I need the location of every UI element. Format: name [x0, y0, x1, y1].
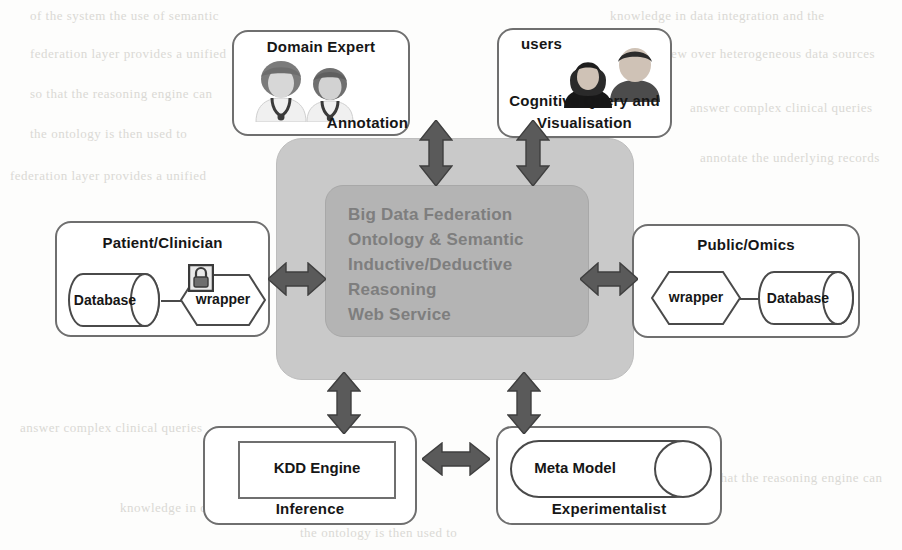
central-core-text: Big Data Federation Ontology & Semantic …	[348, 202, 524, 327]
background-bleed-text: so that the reasoning engine can	[700, 470, 882, 486]
arrow-center-kdd	[327, 372, 361, 434]
patient-database-cylinder: Database	[67, 270, 163, 334]
node-domain-expert[interactable]: Domain Expert	[232, 30, 410, 136]
background-bleed-text: knowledge in data integration and the	[610, 8, 825, 24]
background-bleed-text: answer complex clinical queries	[690, 100, 873, 116]
background-bleed-text: annotate the underlying records	[700, 150, 880, 166]
cognitive-users-caption-line1: Cognitive Query and	[499, 92, 670, 109]
node-experimentalist[interactable]: Meta Model Experimentalist	[496, 426, 722, 525]
meta-model-label: Meta Model	[478, 459, 672, 476]
background-bleed-text: the ontology is then used to	[30, 126, 187, 142]
node-patient-clinician[interactable]: Patient/Clinician Database wrapper	[55, 221, 270, 337]
kdd-engine-label: KDD Engine	[240, 459, 394, 476]
kdd-inference-caption: Inference	[205, 500, 415, 517]
domain-expert-title: Domain Expert	[234, 38, 408, 55]
diagram-canvas: of the system the use of semantic knowle…	[0, 0, 902, 550]
meta-model-circle-cap	[654, 440, 712, 498]
background-bleed-text: answer complex clinical queries	[20, 420, 203, 436]
kdd-engine-box: KDD Engine	[238, 441, 396, 499]
background-bleed-text: so that the reasoning engine can	[30, 86, 212, 102]
arrow-center-experimentalist	[507, 372, 541, 434]
central-federation-panel: Big Data Federation Ontology & Semantic …	[276, 138, 634, 380]
omics-wrapper-label: wrapper	[650, 289, 742, 305]
background-bleed-text: federation layer provides a unified	[30, 46, 227, 62]
domain-expert-caption: Annotation	[234, 114, 440, 131]
public-omics-title: Public/Omics	[634, 236, 858, 253]
background-bleed-text: of the system the use of semantic	[30, 8, 219, 24]
arrow-center-patient-clinician	[268, 262, 326, 296]
experimentalist-caption: Experimentalist	[498, 500, 720, 517]
background-bleed-text: view over heterogeneous data sources	[660, 46, 875, 62]
central-federation-core: Big Data Federation Ontology & Semantic …	[325, 185, 589, 337]
background-bleed-text: federation layer provides a unified	[10, 168, 207, 184]
background-bleed-text: the ontology is then used to	[300, 525, 457, 541]
arrow-center-domain-expert	[419, 120, 453, 186]
patient-database-label: Database	[57, 292, 153, 308]
arrow-center-public-omics	[580, 262, 638, 296]
patient-clinician-title: Patient/Clinician	[57, 234, 268, 251]
arrow-kdd-experimentalist	[422, 442, 490, 476]
omics-database-label: Database	[748, 290, 848, 306]
cognitive-users-title: users	[499, 35, 692, 52]
padlock-icon	[188, 264, 214, 296]
omics-wrapper-hexagon: wrapper	[650, 270, 742, 330]
node-public-omics[interactable]: Public/Omics wrapper Database	[632, 224, 860, 338]
node-kdd-inference[interactable]: KDD Engine Inference	[203, 426, 417, 525]
arrow-center-cognitive-users	[516, 120, 550, 186]
omics-database-cylinder: Database	[758, 268, 858, 332]
